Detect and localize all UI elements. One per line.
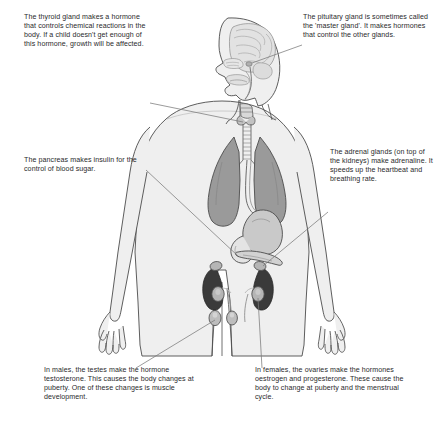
pituitary-caption: The pituitary gland is sometimes called … — [303, 13, 431, 40]
testes-caption: In males, the testes make the hormone te… — [44, 366, 204, 402]
ovaries-caption: In females, the ovaries make the hormone… — [255, 366, 405, 402]
thyroid-caption: The thyroid gland makes a hormone that c… — [24, 13, 152, 49]
diagram-canvas: The thyroid gland makes a hormone that c… — [0, 0, 443, 431]
adrenal-caption: The adrenal glands (on top of the kidney… — [330, 148, 434, 184]
pituitary-gland — [246, 62, 252, 67]
pancreas-caption: The pancreas makes insulin for the contr… — [24, 156, 144, 174]
